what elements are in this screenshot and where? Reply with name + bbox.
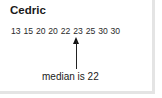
card-title: Cedric: [10, 4, 46, 16]
median-label: median is 22: [42, 71, 99, 82]
arrow-line: [76, 41, 77, 69]
number-list: 13 15 20 20 22 23 25 30 30: [11, 26, 120, 36]
median-card: Cedric 13 15 20 20 22 23 25 30 30 median…: [0, 0, 155, 94]
